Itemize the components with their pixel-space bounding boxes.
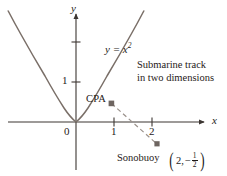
coordinate-values: 2, − 1 2: [175, 152, 199, 168]
curve-equation-label: y = x2: [105, 42, 131, 55]
y-tick-label-1: 1: [62, 75, 68, 87]
x-axis-label: x: [212, 115, 217, 127]
sonobuoy-label: Sonobuoy: [117, 152, 160, 163]
y-axis-label: y: [71, 3, 76, 15]
fraction-denominator: 2: [192, 161, 198, 169]
submarine-track-note-line1: Submarine track: [137, 59, 214, 72]
curve-equation-exponent: 2: [128, 41, 132, 50]
cpa-sonobuoy-dashed-line: [112, 104, 158, 145]
x-tick-label-2: 2: [149, 126, 155, 138]
sonobuoy-coordinates: ( 2, − 1 2 ): [168, 152, 206, 168]
submarine-track-note: Submarine track in two dimensions: [137, 59, 214, 85]
submarine-track-figure: x y 0 1 2 1 y = x2 CPA Submarine track i…: [0, 0, 227, 176]
x-tick-label-1: 1: [111, 126, 117, 138]
cpa-label: CPA: [86, 93, 106, 104]
fraction-numerator: 1: [192, 152, 198, 160]
sonobuoy-point-marker: [154, 141, 159, 146]
sonobuoy-y-fraction: 1 2: [192, 152, 198, 168]
origin-label: 0: [64, 126, 70, 138]
curve-equation-base: y = x: [105, 43, 128, 55]
submarine-track-note-line2: in two dimensions: [137, 72, 214, 85]
sonobuoy-x-value: 2,: [176, 155, 184, 166]
cpa-point-marker: [109, 101, 115, 107]
plot-canvas: [0, 0, 227, 176]
sonobuoy-minus-sign: −: [185, 155, 191, 166]
